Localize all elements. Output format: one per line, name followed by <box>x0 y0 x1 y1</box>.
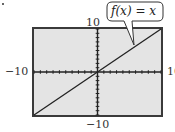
y-min-label: −10 <box>86 119 109 130</box>
x-min-label: −10 <box>5 66 28 77</box>
x-max-label: 10 <box>167 66 175 77</box>
y-max-label: 10 <box>86 17 100 28</box>
stray-mark <box>2 3 4 5</box>
function-label: f(x) = x <box>111 5 156 17</box>
graph-figure: f(x) = x 10 −10 10 −10 <box>0 0 175 132</box>
